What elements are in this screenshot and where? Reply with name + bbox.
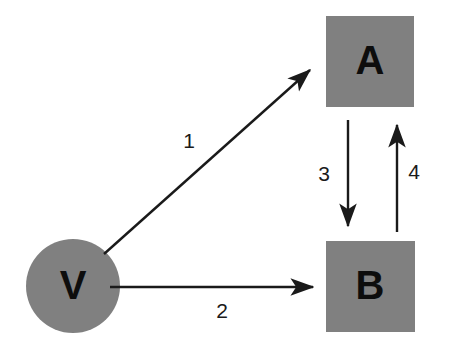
node-a-label: A: [356, 38, 385, 82]
edge-1-line: [104, 70, 310, 254]
diagram-svg: A B V 1 2 3 4: [0, 0, 449, 351]
edge-3-label: 3: [318, 162, 330, 185]
node-v-label: V: [60, 263, 87, 307]
edge-2: 2: [110, 287, 313, 322]
node-a: A: [326, 16, 414, 107]
node-b-label: B: [356, 263, 385, 307]
edge-1: 1: [104, 70, 310, 254]
edge-1-label: 1: [183, 129, 195, 152]
edge-2-label: 2: [216, 299, 228, 322]
diagram-canvas: A B V 1 2 3 4: [0, 0, 449, 351]
edge-3: 3: [318, 120, 348, 226]
node-b: B: [326, 241, 415, 332]
edge-4-label: 4: [408, 160, 420, 183]
edge-4: 4: [397, 125, 420, 232]
